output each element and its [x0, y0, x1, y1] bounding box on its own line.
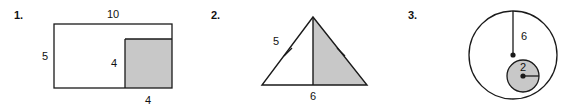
label-square-height: 4 [111, 57, 117, 69]
label-square-width: 4 [145, 94, 151, 106]
shaded-square-region [125, 39, 172, 88]
problem-1: 1. 10 5 4 4 [0, 0, 200, 110]
label-large-radius: 6 [521, 30, 527, 42]
label-small-radius: 2 [520, 61, 526, 73]
problem-2: 2. 5 6 [200, 0, 390, 110]
small-circle-center-dot [520, 73, 525, 78]
label-triangle-base: 6 [310, 90, 316, 102]
label-rectangle-width: 10 [107, 8, 119, 20]
large-circle-center-dot [510, 52, 515, 57]
problem-1-figure: 10 5 4 4 [0, 0, 200, 110]
problem-3: 3. 6 2 [390, 0, 567, 110]
problem-3-figure: 6 2 [390, 0, 567, 110]
geometry-worksheet: 1. 10 5 4 4 2. [0, 0, 567, 110]
label-triangle-side: 5 [273, 35, 279, 47]
label-rectangle-height: 5 [42, 50, 48, 62]
problem-2-figure: 5 6 [200, 0, 390, 110]
